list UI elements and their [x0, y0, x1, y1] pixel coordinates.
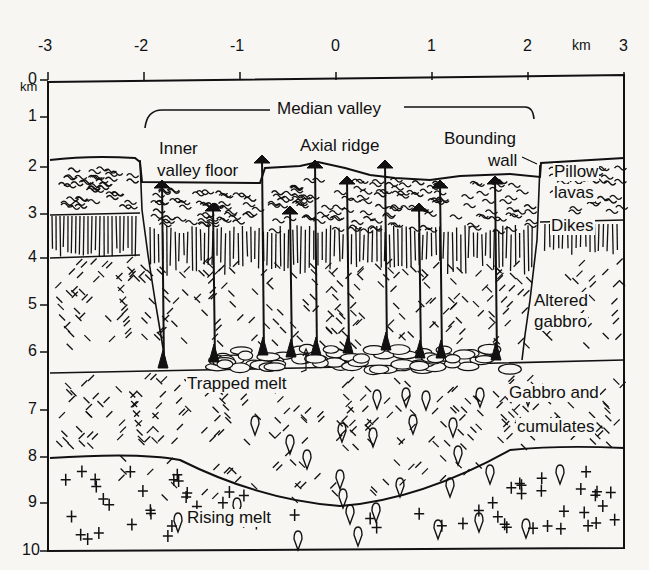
label-axial-ridge: Axial ridge: [300, 137, 379, 155]
x-tick-label: 0: [331, 37, 340, 55]
cross-section-drawing: [0, 0, 649, 570]
label-altered-gabbro-line2: gabbro: [533, 313, 588, 331]
label-pillow-lavas-line1: Pillow: [553, 163, 599, 181]
y-tick-label: 4: [28, 248, 37, 266]
label-median-valley: Median valley: [276, 100, 382, 118]
y-axis-unit: km: [20, 79, 37, 94]
label-bounding-wall-line2: wall: [488, 152, 517, 170]
label-dikes: Dikes: [550, 217, 595, 235]
x-tick-label: 2: [523, 37, 532, 55]
y-tick-label: 1: [28, 107, 37, 125]
x-tick-label: 3: [619, 37, 628, 55]
y-tick-label: 8: [28, 447, 37, 465]
label-gabbro-cumulates-line2: cumulates: [516, 418, 595, 436]
y-tick-label: 5: [28, 295, 37, 313]
x-tick-label: -3: [38, 37, 52, 55]
label-inner-valley-floor-line2: valley floor: [157, 162, 238, 180]
x-axis-unit: km: [572, 37, 591, 53]
label-pillow-lavas-line2: lavas: [553, 184, 595, 202]
label-bounding-wall-line1: Bounding: [444, 130, 516, 148]
y-tick-label: 9: [28, 493, 37, 511]
label-altered-gabbro-line1: Altered: [533, 292, 589, 310]
x-tick-label: -1: [230, 37, 244, 55]
label-trapped-melt: Trapped melt: [186, 375, 288, 393]
label-inner-valley-floor-line1: Inner: [159, 140, 198, 158]
label-gabbro-cumulates-line1: Gabbro and: [508, 384, 600, 402]
y-tick-label: 6: [28, 342, 37, 360]
cross-section-figure: -3-2-10123 km 012345678910 km Median val…: [0, 0, 649, 570]
x-tick-label: -2: [134, 37, 148, 55]
label-rising-melt: Rising melt: [186, 509, 272, 527]
y-tick-label: 10: [22, 541, 40, 559]
y-tick-label: 2: [28, 157, 37, 175]
y-tick-label: 3: [28, 204, 37, 222]
y-tick-label: 7: [28, 400, 37, 418]
x-tick-label: 1: [427, 37, 436, 55]
